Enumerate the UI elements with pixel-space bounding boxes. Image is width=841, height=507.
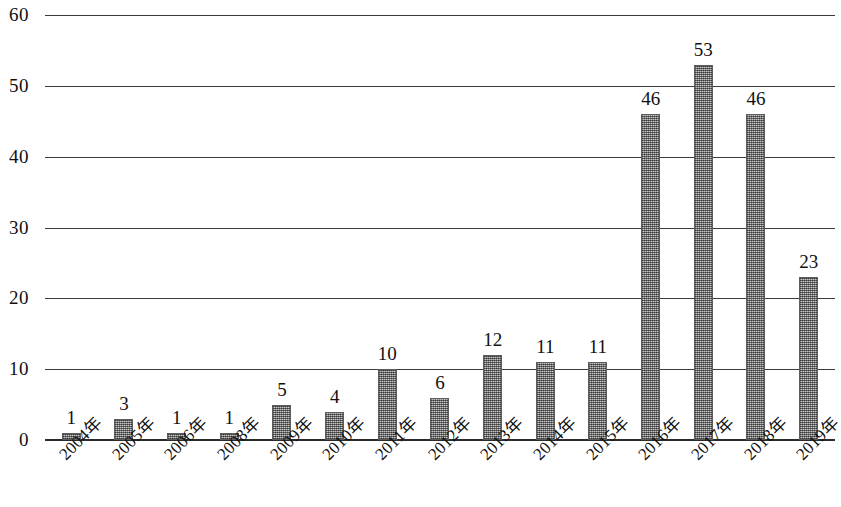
bar-value-label: 23: [782, 252, 835, 271]
x-axis-tick: 2006年: [150, 441, 203, 507]
x-axis-tick: 2019年: [782, 441, 835, 507]
y-axis-tick-label: 20: [0, 288, 29, 307]
x-axis-tick: 2016年: [624, 441, 677, 507]
y-axis-tick-label: 60: [0, 5, 29, 24]
y-axis-tick-label: 40: [0, 147, 29, 166]
bar-group: 11: [519, 15, 572, 440]
bar-value-label: 53: [677, 40, 730, 59]
bar-chart: 605040302010013115410612111146534623 200…: [0, 0, 841, 507]
x-axis-tick: 2015年: [572, 441, 625, 507]
bar-group: 12: [466, 15, 519, 440]
x-axis-tick: 2009年: [256, 441, 309, 507]
y-axis-tick-label: 30: [0, 218, 29, 237]
bar-value-label: 6: [414, 373, 467, 392]
bar-group: 46: [730, 15, 783, 440]
x-axis-tick: 2010年: [308, 441, 361, 507]
x-axis-tick: 2013年: [466, 441, 519, 507]
y-axis-tick-label: 50: [0, 76, 29, 95]
bar-value-label: 4: [308, 387, 361, 406]
bar-group: 4: [308, 15, 361, 440]
x-axis-label-group: 2004年2005年2006年2008年2009年2010年2011年2012年…: [45, 441, 835, 507]
x-axis-tick: 2017年: [677, 441, 730, 507]
bar[interactable]: [694, 65, 713, 440]
x-axis-tick: 2008年: [203, 441, 256, 507]
x-axis-tick: 2014年: [519, 441, 572, 507]
plot-area: 605040302010013115410612111146534623: [45, 15, 835, 440]
bar-group: 1: [45, 15, 98, 440]
x-axis-tick: 2005年: [98, 441, 151, 507]
x-axis-tick: 2018年: [730, 441, 783, 507]
bar-group: 11: [572, 15, 625, 440]
bar[interactable]: [641, 114, 660, 440]
y-axis-tick-label: 10: [0, 359, 29, 378]
bar-value-label: 46: [730, 89, 783, 108]
bar-value-label: 3: [98, 394, 151, 413]
bar-group: 5: [256, 15, 309, 440]
bar-value-label: 11: [572, 337, 625, 356]
y-axis-tick-label: 0: [0, 430, 29, 449]
x-axis-tick: 2012年: [414, 441, 467, 507]
bar-group: 1: [150, 15, 203, 440]
bar-group: 10: [361, 15, 414, 440]
bar-group: 53: [677, 15, 730, 440]
bar-value-label: 11: [519, 337, 572, 356]
bar[interactable]: [799, 277, 818, 440]
bar-group: 6: [414, 15, 467, 440]
x-axis-tick: 2004年: [45, 441, 98, 507]
x-axis-tick: 2011年: [361, 441, 414, 507]
bar-value-label: 46: [624, 89, 677, 108]
bar-group: 46: [624, 15, 677, 440]
bar-group: 23: [782, 15, 835, 440]
bar-group: 3: [98, 15, 151, 440]
bar-value-label: 5: [256, 380, 309, 399]
bar-group: 1: [203, 15, 256, 440]
bar[interactable]: [746, 114, 765, 440]
bar-value-label: 10: [361, 344, 414, 363]
bar-value-label: 12: [466, 330, 519, 349]
